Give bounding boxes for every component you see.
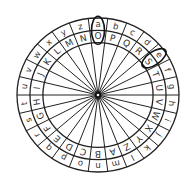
inner-letter-G: G — [35, 111, 47, 121]
outer-letter-s: s — [23, 116, 34, 124]
inner-letter-C: C — [79, 146, 88, 157]
inner-letter-F: F — [42, 123, 53, 133]
outer-letter-o: o — [76, 158, 83, 169]
inner-letter-V: V — [154, 98, 165, 106]
inner-letter-H: H — [32, 98, 43, 106]
outer-letter-f: f — [162, 67, 173, 74]
outer-letter-r: r — [31, 131, 42, 140]
inner-letter-A: A — [108, 146, 117, 157]
inner-letter-W: W — [149, 110, 162, 122]
inner-letter-O: O — [94, 31, 101, 41]
outer-letter-i: i — [163, 117, 173, 123]
outer-letter-p: p — [59, 152, 68, 163]
inner-letter-N: N — [79, 33, 88, 44]
inner-letter-I: I — [32, 86, 42, 90]
outer-letter-u: u — [19, 83, 30, 90]
outer-letter-g: g — [167, 83, 178, 90]
outer-letter-d: d — [142, 36, 153, 47]
outer-letter-m: m — [111, 158, 121, 170]
inner-letter-Z: Z — [122, 141, 132, 153]
outer-letter-k: k — [142, 143, 152, 154]
outer-letter-z: z — [77, 21, 84, 32]
outer-letter-y: y — [59, 27, 68, 38]
inner-letter-U: U — [154, 84, 165, 92]
outer-letter-a: a — [95, 19, 100, 29]
outer-letter-l: l — [129, 153, 136, 163]
inner-letter-B: B — [95, 149, 101, 159]
outer-letter-h: h — [167, 100, 178, 107]
outer-letter-j: j — [155, 131, 165, 139]
outer-letter-b: b — [112, 21, 120, 32]
inner-letter-L: L — [52, 46, 62, 57]
outer-letter-q: q — [43, 142, 54, 153]
outer-letter-n: n — [95, 161, 100, 171]
outer-letter-v: v — [23, 66, 34, 74]
inner-letter-T: T — [150, 69, 162, 79]
outer-letter-x: x — [43, 37, 53, 48]
inner-letter-P: P — [109, 33, 117, 44]
hub-center — [97, 94, 100, 97]
cipher-wheel: abcdefghijklmnopqrstuvwxyzOPQRSTUVWXYZAB… — [0, 0, 195, 193]
inner-letter-X: X — [143, 123, 155, 134]
inner-letter-E: E — [52, 133, 63, 144]
outer-letter-t: t — [19, 101, 29, 106]
inner-letter-J: J — [35, 71, 46, 78]
outer-letter-c: c — [128, 27, 137, 38]
